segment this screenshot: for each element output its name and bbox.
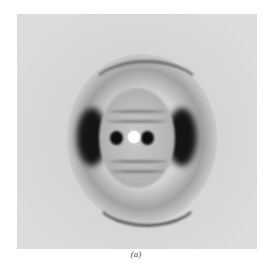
layer-line [107, 120, 167, 123]
layer-line [109, 110, 165, 113]
layer-line [111, 170, 165, 173]
figure-caption: (a) [0, 249, 272, 259]
layer-line [109, 160, 167, 163]
left-dark-spot [110, 131, 123, 145]
right-dark-spot [141, 131, 154, 145]
central-bright-spot [128, 131, 140, 143]
diffraction-photo [17, 14, 257, 249]
